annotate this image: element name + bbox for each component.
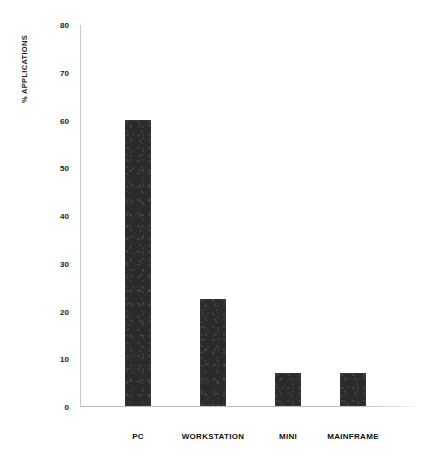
y-tick-label: 10 (60, 355, 69, 364)
x-axis-line (80, 406, 415, 407)
bar-chart-figure: % APPLICATIONS 01020304050607080 PCWORKS… (0, 0, 430, 469)
y-tick-label: 80 (60, 21, 69, 30)
bar-workstation (200, 299, 226, 406)
y-tick-label: 0 (65, 403, 69, 412)
bar-pc (125, 120, 151, 407)
category-label-mini: MINI (279, 432, 297, 441)
y-tick-label: 60 (60, 116, 69, 125)
y-tick-label: 20 (60, 307, 69, 316)
y-tick-label: 50 (60, 164, 69, 173)
y-tick-label: 70 (60, 68, 69, 77)
y-axis-title: % APPLICATIONS (18, 4, 32, 134)
plot-area: 01020304050607080 (80, 25, 415, 407)
bar-mini (275, 373, 301, 406)
bar-mainframe (340, 373, 366, 406)
category-label-workstation: WORKSTATION (182, 432, 245, 441)
y-tick-label: 40 (60, 212, 69, 221)
y-tick-label: 30 (60, 259, 69, 268)
category-label-pc: PC (132, 432, 144, 441)
category-label-mainframe: MAINFRAME (327, 432, 379, 441)
y-axis-line (80, 25, 81, 407)
